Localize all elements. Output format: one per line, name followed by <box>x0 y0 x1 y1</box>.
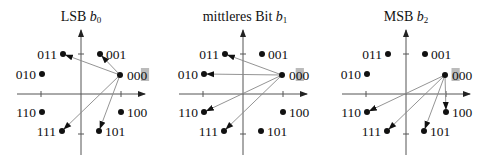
symbol-label-010: 010 <box>16 67 37 82</box>
symbol-label-100: 100 <box>289 105 310 120</box>
distance-arrow-101 <box>100 75 120 128</box>
symbol-point-011 <box>385 51 391 57</box>
symbol-label-110: 110 <box>341 105 361 120</box>
symbol-point-000 <box>117 72 123 78</box>
symbol-point-111 <box>384 128 390 134</box>
panel-msb: 000001011010110111101100 <box>341 30 473 155</box>
symbol-label-001: 001 <box>431 47 451 62</box>
distance-arrow-100 <box>445 75 446 109</box>
symbol-point-010 <box>39 71 45 77</box>
distance-arrow-110 <box>207 75 282 111</box>
symbol-point-101 <box>96 128 102 134</box>
distance-arrow-111 <box>226 75 282 129</box>
symbol-label-010: 010 <box>178 67 199 82</box>
distance-arrow-111 <box>389 75 445 129</box>
symbol-label-011: 011 <box>362 47 382 62</box>
symbol-label-111: 111 <box>199 124 218 139</box>
symbol-point-000 <box>442 72 448 78</box>
symbol-point-101 <box>421 128 427 134</box>
symbol-label-101: 101 <box>267 124 287 139</box>
symbol-point-010 <box>201 71 207 77</box>
symbol-point-110 <box>364 109 370 115</box>
symbol-label-100: 100 <box>127 105 148 120</box>
symbol-point-100 <box>280 109 286 115</box>
symbol-label-111: 111 <box>37 124 56 139</box>
symbol-label-111: 111 <box>362 124 381 139</box>
symbol-label-010: 010 <box>341 67 362 82</box>
symbol-point-010 <box>364 71 370 77</box>
symbol-point-100 <box>118 109 124 115</box>
symbol-point-101 <box>258 128 264 134</box>
symbol-point-111 <box>59 128 65 134</box>
symbol-label-000: 000 <box>289 68 310 83</box>
symbol-point-011 <box>60 51 66 57</box>
symbol-point-000 <box>279 72 285 78</box>
symbol-label-101: 101 <box>430 124 450 139</box>
symbol-label-001: 001 <box>106 47 126 62</box>
symbol-point-011 <box>222 51 228 57</box>
symbol-label-011: 011 <box>37 47 57 62</box>
distance-arrow-010 <box>207 74 282 75</box>
symbol-point-001 <box>422 51 428 57</box>
panel-lsb: 000001011010110111101100 <box>16 30 149 155</box>
distance-arrow-111 <box>64 75 120 129</box>
symbol-point-110 <box>39 109 45 115</box>
symbol-point-100 <box>443 109 449 115</box>
symbol-point-111 <box>221 128 227 134</box>
symbol-point-110 <box>201 109 207 115</box>
symbol-label-001: 001 <box>268 47 288 62</box>
symbol-label-101: 101 <box>105 124 125 139</box>
symbol-label-100: 100 <box>452 105 473 120</box>
symbol-label-110: 110 <box>16 105 36 120</box>
symbol-label-110: 110 <box>178 105 198 120</box>
bit-decision-diagram: LSB b0 mittleres Bit b1 MSB b2 000001011… <box>0 0 485 164</box>
panel-mid: 000001011010110111101100 <box>178 30 310 155</box>
constellation-plots: 0000010110101101111011000000010110101101… <box>0 0 485 164</box>
symbol-point-001 <box>259 51 265 57</box>
symbol-label-000: 000 <box>127 68 148 83</box>
symbol-label-000: 000 <box>452 68 473 83</box>
symbol-label-011: 011 <box>199 47 219 62</box>
symbol-point-001 <box>97 51 103 57</box>
